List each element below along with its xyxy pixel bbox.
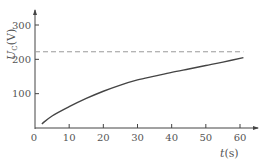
x-tick-label: 30 [131,132,144,143]
y-tick-label: 100 [12,88,31,99]
x-tick-label: 40 [165,132,178,143]
x-axis-ticks: 0102030405060 [31,124,247,143]
y-axis-label: UC(V) [5,29,19,60]
chart: 100200300 0102030405060 UC(V) t(s) [0,0,265,161]
series-layer [35,52,243,124]
charging-curve [42,58,244,124]
axes [35,10,258,129]
x-tick-label: 50 [199,132,212,143]
x-tick-label: 60 [234,132,247,143]
x-tick-label: 10 [63,132,76,143]
x-tick-label: 20 [97,132,110,143]
x-axis-label: t(s) [220,147,239,160]
x-tick-label: 0 [31,132,37,143]
